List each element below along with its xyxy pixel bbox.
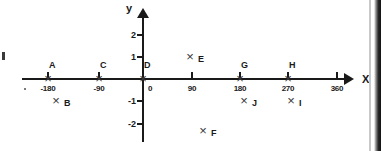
- point-label-f: F: [211, 128, 217, 138]
- point-label-h: H: [289, 60, 296, 70]
- y-tick-label--2: -2: [122, 119, 136, 129]
- y-tick-mark-1: [137, 56, 144, 58]
- page-edge-line-right: [369, 0, 371, 151]
- y-tick-mark--1: [137, 100, 144, 102]
- point-label-i: I: [299, 98, 302, 108]
- y-tick-label-2: 2: [122, 30, 136, 40]
- y-tick-mark--2: [137, 123, 144, 125]
- cross-marker-icon: ×: [50, 95, 62, 107]
- cross-marker-icon: ×: [282, 73, 294, 85]
- cross-marker-icon: ×: [93, 73, 105, 85]
- point-label-b: B: [64, 98, 71, 108]
- page-speckle-artifact: [24, 88, 26, 90]
- point-label-e: E: [198, 54, 204, 64]
- coordinate-plane-figure: X y -180-90090180270360 21-1-2 ×A×B×C×D×…: [0, 0, 381, 151]
- x-axis-line: [22, 78, 347, 80]
- x-tick-mark-360: [336, 72, 338, 79]
- point-label-a: A: [49, 60, 56, 70]
- cross-marker-icon: ×: [42, 73, 54, 85]
- y-axis-label: y: [126, 2, 132, 14]
- x-tick-label-90: 90: [188, 84, 197, 93]
- cross-marker-icon: ×: [285, 95, 297, 107]
- cross-marker-icon: ×: [184, 51, 196, 63]
- y-tick-label-1: 1: [122, 52, 136, 62]
- point-label-j: J: [252, 98, 257, 108]
- cross-marker-icon: ×: [234, 73, 246, 85]
- cross-marker-icon: ×: [238, 95, 250, 107]
- x-tick-mark-90: [191, 72, 193, 79]
- point-label-c: C: [100, 60, 107, 70]
- point-label-g: G: [241, 60, 248, 70]
- y-tick-mark-2: [137, 34, 144, 36]
- cross-marker-icon: ×: [137, 73, 149, 85]
- page-edge-artifact-left: [2, 52, 5, 60]
- page-edge-shadow-right: [374, 0, 381, 151]
- point-label-d: D: [144, 60, 151, 70]
- y-tick-label--1: -1: [122, 96, 136, 106]
- x-tick-label-0: 0: [148, 84, 152, 93]
- y-axis-arrow-icon: [137, 8, 149, 18]
- x-axis-arrow-icon: [344, 73, 354, 85]
- x-tick-label-360: 360: [331, 84, 344, 93]
- cross-marker-icon: ×: [197, 125, 209, 137]
